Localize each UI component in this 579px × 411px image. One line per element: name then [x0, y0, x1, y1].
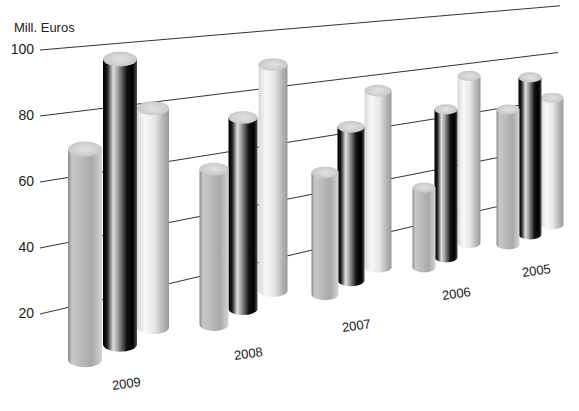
bar-2008-series1 — [200, 163, 229, 331]
y-tick-60: 60 — [0, 173, 34, 189]
y-axis-unit-label: Mill. Euros — [14, 20, 75, 35]
cylinder-chart — [0, 0, 579, 411]
y-tick-40: 40 — [0, 239, 34, 255]
bar-2005-series3 — [541, 93, 564, 230]
bar-2009-series1 — [68, 142, 102, 368]
bar-2008-series2 — [229, 111, 258, 315]
bar-2005-series1 — [497, 104, 520, 249]
bar-2008-series3 — [259, 58, 288, 297]
bar-2007-series1 — [312, 166, 339, 300]
y-tick-80: 80 — [0, 107, 34, 123]
bar-2007-series3 — [365, 85, 392, 273]
y-tick-20: 20 — [0, 305, 34, 321]
bars — [68, 51, 564, 367]
bar-2006-series3 — [458, 71, 481, 248]
bar-2005-series2 — [519, 72, 542, 239]
gridline-100 — [40, 6, 560, 50]
bar-2009-series2 — [103, 51, 137, 351]
bar-2007-series2 — [338, 121, 365, 286]
bar-2006-series2 — [435, 104, 458, 262]
y-tick-100: 100 — [0, 41, 34, 57]
bar-2009-series3 — [137, 101, 169, 334]
bar-2006-series1 — [413, 183, 436, 273]
